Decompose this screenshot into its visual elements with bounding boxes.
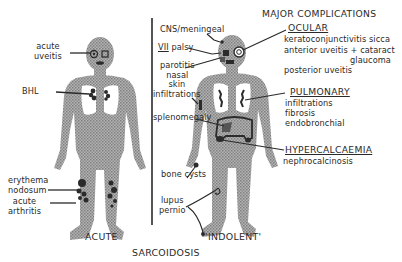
ocular-item: posterior uveitis: [284, 66, 352, 76]
group-heading-ocular: OCULAR: [288, 23, 328, 33]
ocular-item: glaucoma: [350, 56, 391, 66]
pulmonary-item: endobronchial: [285, 119, 345, 129]
label-cns-meningeal: CNS/meningeal: [160, 25, 224, 35]
label-bhl: BHL: [22, 87, 39, 97]
diagram-title: SARCOIDOSIS: [132, 248, 200, 258]
label-acute-arthritis: acute arthritis: [8, 197, 41, 216]
label-splenomegaly: splenomegaly: [153, 113, 212, 123]
label-bone-cysts: bone cysts: [161, 170, 206, 180]
label-acute-uveitis: acute uveitis: [34, 42, 62, 61]
label-parotitis-nasal: parotitis nasal: [160, 61, 195, 80]
label-lupus-pernio: lupus pernio: [159, 196, 186, 215]
panel-label-acute: ACUTE: [85, 232, 118, 242]
group-heading-pulmonary: PULMONARY: [290, 87, 350, 97]
label-vii-palsy: VII palsy: [158, 43, 194, 53]
major-complications-heading: MAJOR COMPLICATIONS: [262, 9, 376, 19]
sarcoidosis-diagram: acute uveitis BHL erythema nodosum acute…: [0, 0, 402, 262]
label-erythema-nodosum: erythema nodosum: [8, 176, 48, 195]
ocular-item: keratoconjunctivitis sicca: [284, 35, 390, 45]
indolent-body-figure: [186, 35, 278, 237]
group-heading-hypercalcaemia: HYPERCALCAEMIA: [285, 145, 372, 155]
panel-label-indolent: 'INDOLENT': [205, 232, 261, 242]
hypercalcaemia-item: nephrocalcinosis: [283, 157, 353, 167]
acute-body-figure: [54, 37, 146, 240]
label-skin-infiltrations: skin infiltrations: [153, 80, 201, 99]
